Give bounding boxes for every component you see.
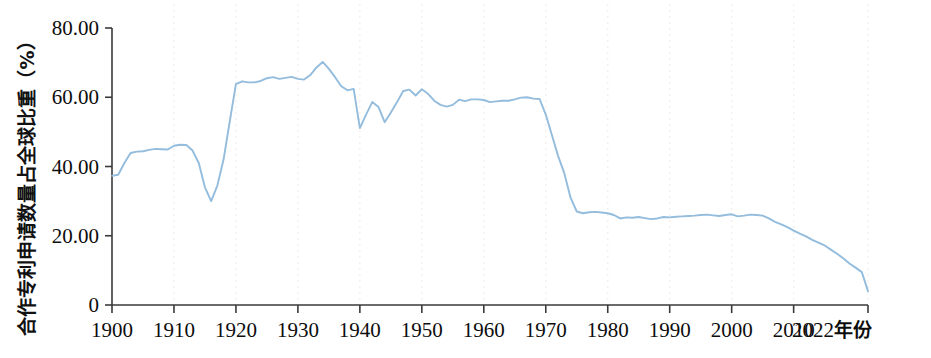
chart-container: 合作专利申请数量占全球比重（%） 80.0060.0040.0020.000 1… (0, 0, 931, 358)
x-axis-tick-label: 1990 (649, 318, 691, 342)
gridlines-group (174, 4, 868, 303)
y-axis-tick-label: 80.00 (52, 16, 99, 40)
x-axis-tick-label: 2000 (711, 318, 753, 342)
x-axis-unit-label: 年份 (834, 319, 873, 341)
x-axis-tick-label: 1910 (153, 318, 195, 342)
x-axis-tick-label: 1940 (339, 318, 381, 342)
x-axis-last-year: 2022 (792, 318, 834, 342)
y-axis-ticks-group (105, 28, 112, 305)
y-axis-tick-label: 20.00 (52, 224, 99, 248)
x-axis-tick-label: 1920 (215, 318, 257, 342)
x-axis-tick-label: 1980 (587, 318, 629, 342)
x-axis-tick-label: 1900 (91, 318, 133, 342)
x-axis-tick-labels: 1900191019201930194019501960197019801990… (91, 318, 873, 342)
data-series-line (112, 62, 868, 291)
x-axis-tick-label: 1930 (277, 318, 319, 342)
y-axis-tick-label: 40.00 (52, 155, 99, 179)
y-axis-tick-label: 0 (89, 293, 100, 317)
y-axis-tick-label: 60.00 (52, 85, 99, 109)
x-axis-tick-label: 1960 (463, 318, 505, 342)
line-chart-plot: 80.0060.0040.0020.000 190019101920193019… (0, 0, 931, 358)
y-axis-tick-labels: 80.0060.0040.0020.000 (52, 16, 99, 317)
x-axis-tick-label: 1950 (401, 318, 443, 342)
x-axis-ticks-group (112, 305, 868, 313)
x-axis-tick-label: 1970 (525, 318, 567, 342)
x-axis-tick-label: 2022年份 (792, 318, 873, 342)
